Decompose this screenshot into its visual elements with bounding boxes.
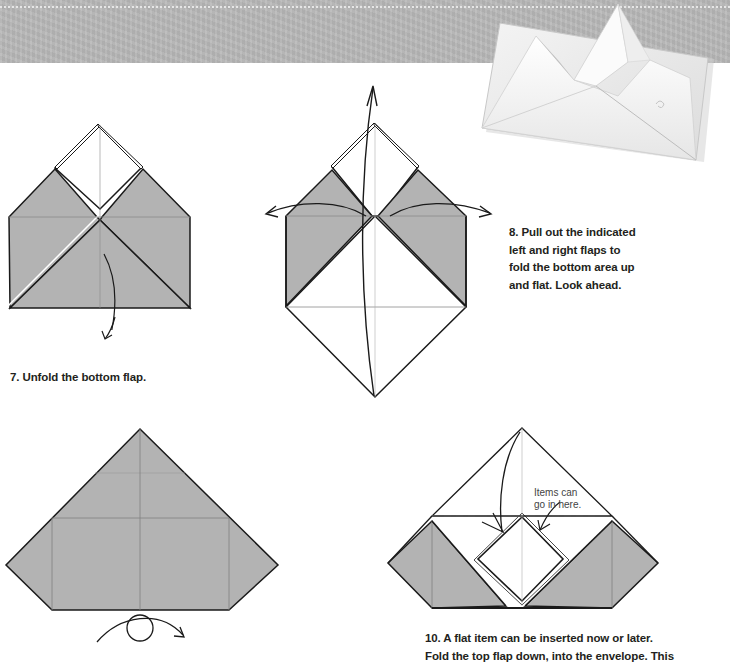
step-10-caption-line: Fold the top flap down, into the envelop… — [425, 648, 674, 665]
turn-over-icon — [90, 605, 210, 656]
step-7-diagram — [0, 110, 240, 330]
step-8-caption: 8. Pull out the indicated left and right… — [509, 224, 636, 294]
callout-line: go in here. — [534, 499, 581, 511]
step-8-caption-line: fold the bottom area up — [509, 259, 636, 277]
step-10-callout: Items can go in here. — [534, 487, 581, 511]
step-7-arrow-icon — [95, 315, 125, 345]
callout-line: Items can — [534, 487, 581, 499]
step-10-diagram — [380, 420, 680, 615]
step-10-caption: 10. A flat item can be inserted now or l… — [425, 630, 674, 665]
step-8-diagram — [240, 50, 500, 400]
step-8-caption-line: 8. Pull out the indicated — [509, 224, 636, 242]
step-8-caption-line: and flat. Look ahead. — [509, 277, 636, 295]
step-8-caption-line: left and right flaps to — [509, 242, 636, 260]
finished-envelope-photo — [478, 0, 730, 170]
step-7-caption: 7. Unfold the bottom flap. — [10, 369, 146, 387]
step-10-caption-line: 10. A flat item can be inserted now or l… — [425, 630, 674, 648]
